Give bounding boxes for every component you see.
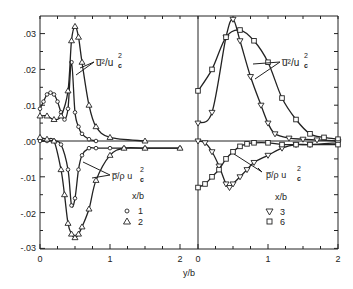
p-label: p̅/ρ u xyxy=(112,171,133,181)
legend-right: x/b 3 6 xyxy=(266,192,287,227)
square-marker-icon xyxy=(336,142,341,147)
svg-text:c: c xyxy=(140,176,144,183)
svg-text:x/b: x/b xyxy=(275,192,287,202)
circle-marker-icon xyxy=(80,132,84,136)
circle-marker-icon xyxy=(70,204,74,208)
triangle-up-marker-icon xyxy=(62,192,68,197)
triangle-up-marker-icon xyxy=(79,224,85,229)
series-line xyxy=(40,62,96,141)
svg-text:2: 2 xyxy=(304,52,308,59)
square-marker-icon xyxy=(231,149,236,154)
chart-figure: .03 .02 .01 .00 -.01 -.02 -.03 0 1 2 0 1… xyxy=(0,0,353,289)
triangle-up-marker-icon xyxy=(69,38,75,43)
svg-text:c: c xyxy=(304,62,308,69)
square-marker-icon xyxy=(224,157,229,162)
triangle-down-marker-icon xyxy=(227,186,233,191)
square-marker-icon xyxy=(294,117,299,122)
svg-text:6: 6 xyxy=(280,217,285,227)
x-tick-label: 0 xyxy=(195,254,200,264)
triangle-up-marker-icon xyxy=(72,23,78,28)
square-marker-icon xyxy=(238,28,243,33)
square-marker-icon xyxy=(238,144,243,149)
x-tick-label: 2 xyxy=(335,254,340,264)
circle-marker-icon xyxy=(73,111,77,115)
svg-text:2: 2 xyxy=(140,166,144,173)
triangle-down-marker-icon xyxy=(195,121,201,126)
svg-text:2: 2 xyxy=(138,217,143,227)
svg-text:u̅²/u: u̅²/u xyxy=(282,57,300,68)
left-panel-axes xyxy=(40,16,198,249)
square-marker-icon xyxy=(280,142,285,147)
square-marker-icon xyxy=(224,35,229,40)
series-line xyxy=(40,26,145,141)
triangle-up-marker-icon xyxy=(69,231,75,236)
triangle-down-marker-icon xyxy=(248,75,254,80)
svg-text:c: c xyxy=(297,175,301,182)
circle-marker-icon xyxy=(94,139,98,143)
triangle-up-marker-icon xyxy=(65,220,71,225)
circle-marker-icon xyxy=(108,146,112,150)
svg-text:1: 1 xyxy=(138,206,143,216)
y-tick-label: -.03 xyxy=(20,243,36,253)
x-tick-labels: 0 1 2 0 1 2 y/b xyxy=(37,254,340,278)
square-marker-icon xyxy=(266,60,271,65)
circle-marker-icon xyxy=(66,107,70,111)
svg-text:2: 2 xyxy=(297,165,301,172)
square-marker-icon xyxy=(308,132,313,137)
triangle-up-marker-icon xyxy=(76,34,82,39)
circle-marker-icon xyxy=(87,137,91,141)
triangle-down-marker-icon xyxy=(209,110,215,115)
square-marker-icon xyxy=(308,142,313,147)
square-marker-icon xyxy=(217,167,222,172)
svg-text:2: 2 xyxy=(118,52,122,59)
square-marker-icon xyxy=(322,135,327,140)
x-axis-label: y/b xyxy=(183,268,195,278)
circle-marker-icon xyxy=(38,107,42,111)
x-tick-label: 2 xyxy=(177,254,182,264)
annotation-u2-right: u̅²/u c 2 xyxy=(253,52,308,79)
triangle-up-marker-icon xyxy=(79,59,85,64)
triangle-up-marker-icon xyxy=(86,206,92,211)
x-tick-label: 0 xyxy=(37,254,42,264)
svg-text:c: c xyxy=(118,62,122,69)
square-marker-icon xyxy=(267,219,272,224)
circle-marker-icon xyxy=(94,146,98,150)
axis-ticks xyxy=(40,16,338,249)
circle-marker-icon xyxy=(73,196,77,200)
square-marker-icon xyxy=(203,182,208,187)
triangle-down-marker-icon xyxy=(237,39,243,44)
square-marker-icon xyxy=(196,89,201,94)
circle-marker-icon xyxy=(87,146,91,150)
x-tick-label: 1 xyxy=(265,254,270,264)
triangle-up-marker-icon xyxy=(76,231,82,236)
triangle-up-marker-icon xyxy=(37,134,43,139)
triangle-up-marker-icon xyxy=(58,167,64,172)
circle-marker-icon xyxy=(80,154,84,158)
circle-marker-icon xyxy=(52,93,56,97)
y-tick-label: .01 xyxy=(23,101,36,111)
square-marker-icon xyxy=(196,185,201,190)
square-marker-icon xyxy=(266,140,271,145)
triangle-down-marker-icon xyxy=(258,103,264,108)
triangle-marker-icon xyxy=(124,218,131,224)
svg-text:x/b: x/b xyxy=(132,191,144,201)
data-curves xyxy=(37,17,341,239)
square-marker-icon xyxy=(210,67,215,72)
circle-marker-icon xyxy=(56,100,60,104)
triangle-down-marker-icon xyxy=(265,121,271,126)
circle-marker-icon xyxy=(125,209,129,213)
circle-marker-icon xyxy=(77,125,81,129)
y-tick-label: .02 xyxy=(23,65,36,75)
triangle-up-marker-icon xyxy=(86,102,92,107)
square-marker-icon xyxy=(252,140,257,145)
circle-marker-icon xyxy=(66,168,70,172)
circle-marker-icon xyxy=(49,91,53,95)
u2-label: u̅²/u xyxy=(96,57,114,68)
triangle-up-marker-icon xyxy=(58,113,64,118)
square-marker-icon xyxy=(294,142,299,147)
svg-text:3: 3 xyxy=(280,207,285,217)
y-tick-labels: .03 .02 .01 .00 -.01 -.02 -.03 xyxy=(20,29,36,253)
circle-marker-icon xyxy=(42,100,46,104)
circle-marker-icon xyxy=(45,93,49,97)
x-tick-label: 1 xyxy=(107,254,112,264)
